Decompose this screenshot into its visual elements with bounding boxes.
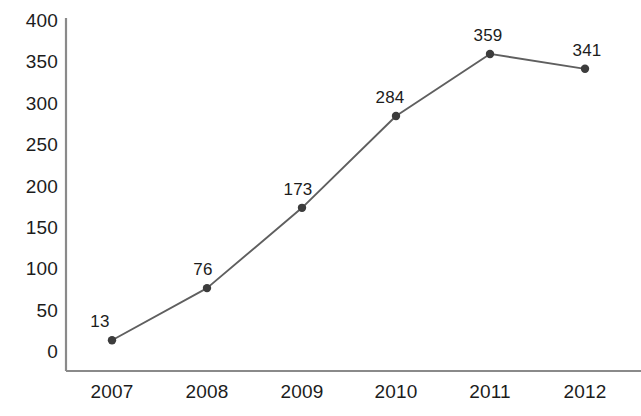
data-point-label: 173 <box>284 181 313 198</box>
data-point-marker <box>203 284 211 292</box>
data-point-marker <box>581 65 589 73</box>
series-markers <box>108 50 589 345</box>
data-point-label: 76 <box>193 261 212 278</box>
y-axis-tick-label: 100 <box>26 259 58 278</box>
data-point-label: 13 <box>90 313 109 330</box>
x-axis-tick-label: 2007 <box>90 382 133 401</box>
x-axis-tick-label: 2012 <box>563 382 606 401</box>
data-point-marker <box>108 336 116 344</box>
line-chart: 050100150200250300350400 200720082009201… <box>0 0 641 416</box>
data-point-label: 359 <box>474 27 503 44</box>
y-axis-tick-label: 0 <box>47 342 58 361</box>
series-line <box>112 54 585 340</box>
y-axis-tick-label: 200 <box>26 176 58 195</box>
x-axis-tick-label: 2009 <box>280 382 323 401</box>
x-axis-tick-label: 2011 <box>469 382 511 401</box>
data-point-marker <box>298 204 306 212</box>
y-axis-tick-label: 350 <box>26 52 58 71</box>
data-point-label: 341 <box>573 42 602 59</box>
x-axis-tick-label: 2008 <box>185 382 228 401</box>
y-axis-tick-label: 300 <box>26 93 58 112</box>
y-axis-tick-label: 400 <box>26 11 58 30</box>
y-axis-tick-label: 150 <box>26 217 58 236</box>
data-point-label: 284 <box>376 89 405 106</box>
y-axis-tick-label: 250 <box>26 135 58 154</box>
x-axis-tick-label: 2010 <box>374 382 417 401</box>
chart-plot-area <box>0 0 641 416</box>
y-axis-tick-label: 50 <box>36 300 58 319</box>
data-point-marker <box>392 112 400 120</box>
data-point-marker <box>486 50 494 58</box>
